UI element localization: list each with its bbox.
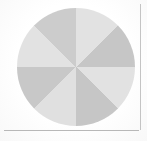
chart-title — [0, 0, 1, 1]
pie-chart — [17, 8, 135, 126]
frame-line-bottom — [4, 130, 139, 131]
figure-root — [0, 0, 147, 141]
frame-line-right — [140, 4, 141, 130]
figure-caption — [0, 0, 1, 1]
pie-disc — [17, 8, 135, 126]
